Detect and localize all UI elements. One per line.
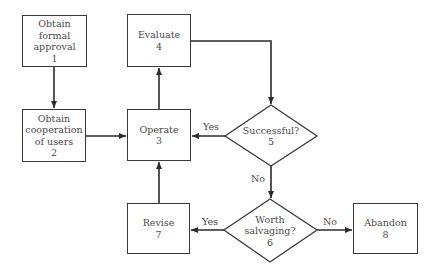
node-worth-salvaging: Worth salvaging? 6 — [230, 212, 310, 250]
node-1-line-1: Obtain — [38, 18, 71, 30]
node-1-number: 1 — [51, 53, 57, 65]
node-8-number: 8 — [382, 229, 388, 241]
node-7-line-1: Revise — [143, 217, 175, 229]
node-abandon: Abandon 8 — [353, 203, 418, 254]
node-5-number: 5 — [268, 136, 274, 148]
node-1-line-3: approval — [33, 41, 75, 53]
edge-label-no-5-to-6: No — [251, 173, 265, 184]
node-3-line-1: Operate — [139, 124, 178, 136]
node-5-line-1: Successful? — [243, 125, 299, 137]
node-8-line-1: Abandon — [364, 217, 407, 229]
node-7-number: 7 — [155, 229, 161, 241]
edge-label-yes-6-to-7: Yes — [202, 216, 218, 227]
node-2-number: 2 — [51, 147, 57, 159]
node-6-line-1: Worth — [255, 214, 284, 226]
node-1-line-2: formal — [39, 30, 71, 42]
edge-label-yes-5-to-3: Yes — [203, 121, 219, 132]
node-4-number: 4 — [156, 41, 162, 53]
node-revise: Revise 7 — [127, 203, 190, 254]
flowchart: Obtain formal approval 1 Obtain cooperat… — [0, 0, 439, 273]
edge-label-no-6-to-8: No — [323, 216, 337, 227]
node-successful: Successful? 5 — [231, 122, 311, 150]
node-obtain-cooperation-of-users: Obtain cooperation of users 2 — [22, 109, 86, 162]
node-3-number: 3 — [156, 135, 162, 147]
node-evaluate: Evaluate 4 — [127, 14, 191, 67]
node-2-line-3: of users — [35, 136, 73, 148]
node-4-line-1: Evaluate — [138, 29, 180, 41]
node-2-line-2: cooperation — [25, 124, 82, 136]
node-operate: Operate 3 — [127, 109, 191, 161]
node-6-number: 6 — [267, 237, 273, 249]
node-6-line-2: salvaging? — [244, 225, 295, 237]
node-obtain-formal-approval: Obtain formal approval 1 — [22, 15, 87, 67]
arrow-4-to-5 — [191, 41, 271, 104]
node-2-line-1: Obtain — [38, 113, 71, 125]
